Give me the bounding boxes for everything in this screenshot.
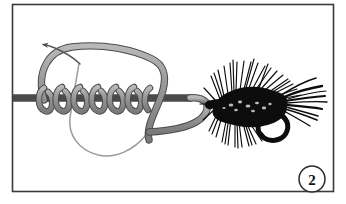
step-number-badge: 2 xyxy=(299,166,325,192)
illustration-panel: 2 xyxy=(0,0,346,204)
badge-number: 2 xyxy=(308,172,316,188)
fishing-knot-diagram: 2 xyxy=(0,0,346,204)
